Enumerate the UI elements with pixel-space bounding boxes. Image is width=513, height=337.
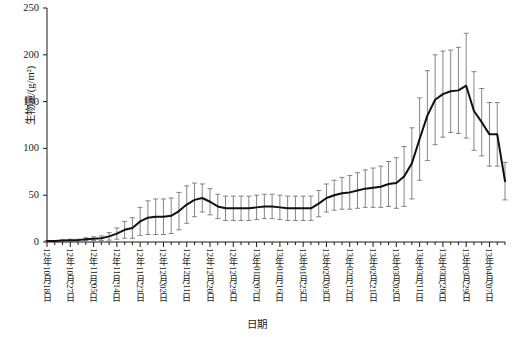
x-tick-label: 13年02月21日 xyxy=(368,248,377,302)
y-tick-label: 50 xyxy=(5,190,39,201)
x-tick-label: 12年11月05日 xyxy=(89,248,98,302)
x-tick-label: 13年01月16日 xyxy=(275,248,284,302)
x-tick-label: 12年12月02日 xyxy=(158,248,167,302)
x-tick-label: 13年04月07日 xyxy=(484,248,493,302)
plot-area xyxy=(47,8,505,242)
x-tick-label: 13年02月12日 xyxy=(345,248,354,302)
x-tick-label: 12年11月14日 xyxy=(112,248,121,302)
y-tick-label: 100 xyxy=(5,143,39,154)
x-tick-label: 13年01月07日 xyxy=(252,248,261,302)
x-tick-label: 12年12月29日 xyxy=(228,248,237,302)
x-tick-label: 12年12月11日 xyxy=(182,248,191,302)
x-tick-label: 12年10月18日 xyxy=(42,248,51,302)
x-tick-label: 13年03月11日 xyxy=(415,248,424,302)
x-tick-label: 12年12月20日 xyxy=(205,248,214,302)
x-tick-label: 13年02月03日 xyxy=(321,248,330,302)
x-axis-title: 日期 xyxy=(0,316,513,331)
y-tick-label: 0 xyxy=(5,237,39,248)
x-tick-label: 13年03月20日 xyxy=(438,248,447,302)
biomass-time-series-chart: 生物量/(g/m²) 日期 05010015020025012年10月18日12… xyxy=(0,0,513,337)
x-tick-label: 12年11月23日 xyxy=(135,248,144,302)
x-tick-label: 12年10月27日 xyxy=(65,248,74,302)
y-tick-label: 250 xyxy=(5,3,39,14)
x-tick-label: 13年03月29日 xyxy=(461,248,470,302)
y-tick-label: 200 xyxy=(5,50,39,61)
y-tick-label: 150 xyxy=(5,97,39,108)
x-tick-label: 13年01月25日 xyxy=(298,248,307,302)
x-tick-label: 13年03月02日 xyxy=(391,248,400,302)
